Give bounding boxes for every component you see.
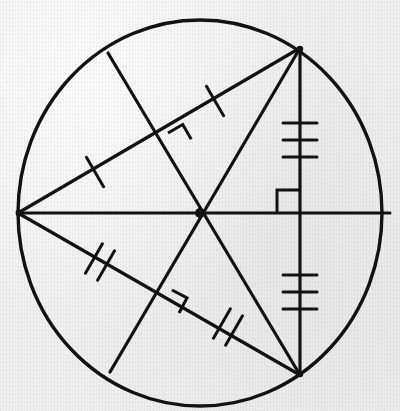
tick-group-lower-chord-left-half xyxy=(85,244,114,280)
geometry-figure xyxy=(0,0,400,411)
chord-left-to-upper-right xyxy=(18,48,300,213)
lower-right-vertex-dot xyxy=(297,371,303,377)
left-vertex-dot xyxy=(16,210,23,217)
right-angle-mark-centre-right xyxy=(277,190,300,213)
centre-point-dot xyxy=(195,208,205,218)
chord-lower-left-through-centre xyxy=(110,48,300,372)
upper-right-vertex-dot xyxy=(297,46,303,52)
chord-left-to-lower-right xyxy=(18,213,300,375)
right-angle-mark-upper-left xyxy=(168,125,191,148)
geometry-diagram-svg xyxy=(0,0,400,411)
